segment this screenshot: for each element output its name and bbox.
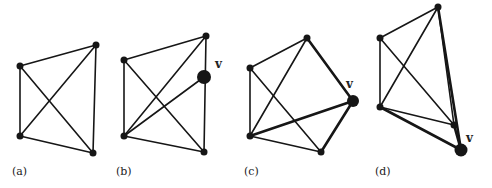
edge-p2-p3 xyxy=(124,36,206,136)
vertex-p4 xyxy=(201,149,208,156)
panel-c: v (c) xyxy=(244,35,359,179)
panel-c-vertices xyxy=(247,35,360,156)
edge-p2-p4 xyxy=(204,36,206,152)
vertex-v xyxy=(455,144,468,157)
edge-v-p4 xyxy=(321,101,353,152)
vertex-p2 xyxy=(435,4,442,11)
panel-b-vertex-label: v xyxy=(214,57,223,71)
edge-p2-p3 xyxy=(20,45,96,136)
panel-a-caption: (a) xyxy=(12,165,27,178)
panel-b: v (b) xyxy=(116,33,223,179)
edge-p1-p2 xyxy=(124,36,206,60)
panel-b-caption: (b) xyxy=(116,165,132,178)
vertex-p2 xyxy=(203,33,210,40)
panel-c-vertex-label: v xyxy=(345,77,354,91)
panel-d-vertex-label: v xyxy=(465,131,474,145)
vertex-p4 xyxy=(451,122,458,129)
vertex-p1 xyxy=(17,63,24,70)
panel-c-edges xyxy=(250,38,353,152)
edge-p3-p4 xyxy=(20,136,93,153)
panel-a-edges xyxy=(20,45,96,153)
vertex-p4 xyxy=(90,150,97,157)
panel-d-caption: (d) xyxy=(375,165,391,178)
graph-figure: (a) v (b) v (c) v (d) xyxy=(0,0,492,188)
vertex-p2 xyxy=(93,42,100,49)
edge-p3-p4 xyxy=(380,107,454,125)
vertex-p1 xyxy=(247,65,254,72)
vertex-v xyxy=(197,70,211,84)
edge-v-p3 xyxy=(124,77,204,136)
vertex-p4 xyxy=(318,149,325,156)
vertex-v xyxy=(347,95,359,107)
edge-v-p3 xyxy=(250,101,353,136)
panel-b-edges xyxy=(124,36,206,152)
panel-a: (a) xyxy=(12,42,100,179)
panel-d-vertices xyxy=(377,4,468,157)
edge-p1-p4 xyxy=(20,66,93,153)
vertex-p1 xyxy=(121,57,128,64)
edge-p1-p4 xyxy=(250,68,321,152)
vertex-p1 xyxy=(377,35,384,42)
panel-b-vertices xyxy=(121,33,212,156)
panel-a-vertices xyxy=(17,42,100,157)
vertex-p3 xyxy=(377,104,384,111)
panel-c-caption: (c) xyxy=(244,165,259,178)
edge-v-p2 xyxy=(307,38,353,101)
panel-d: v (d) xyxy=(375,4,474,179)
vertex-p2 xyxy=(304,35,311,42)
edge-v-p2 xyxy=(438,7,461,150)
edge-p1-p2 xyxy=(20,45,96,66)
vertex-p3 xyxy=(247,133,254,140)
vertex-p3 xyxy=(121,133,128,140)
vertex-p3 xyxy=(17,133,24,140)
edge-p2-p4 xyxy=(93,45,96,153)
edge-v-p3 xyxy=(380,107,461,150)
panel-d-edges xyxy=(380,7,461,150)
